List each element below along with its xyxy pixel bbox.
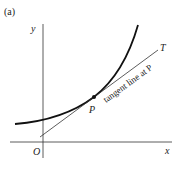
tangent-diagram: (a) y x O P T tangent line at P <box>0 0 179 171</box>
origin-label: O <box>33 146 40 157</box>
tangent-line <box>40 50 158 137</box>
tangent-end-label: T <box>160 42 167 53</box>
point-label: P <box>88 104 95 115</box>
x-axis-label: x <box>164 145 170 156</box>
panel-label: (a) <box>4 6 15 18</box>
curve <box>15 25 138 124</box>
point-p <box>92 95 96 99</box>
y-axis-label: y <box>30 23 36 34</box>
